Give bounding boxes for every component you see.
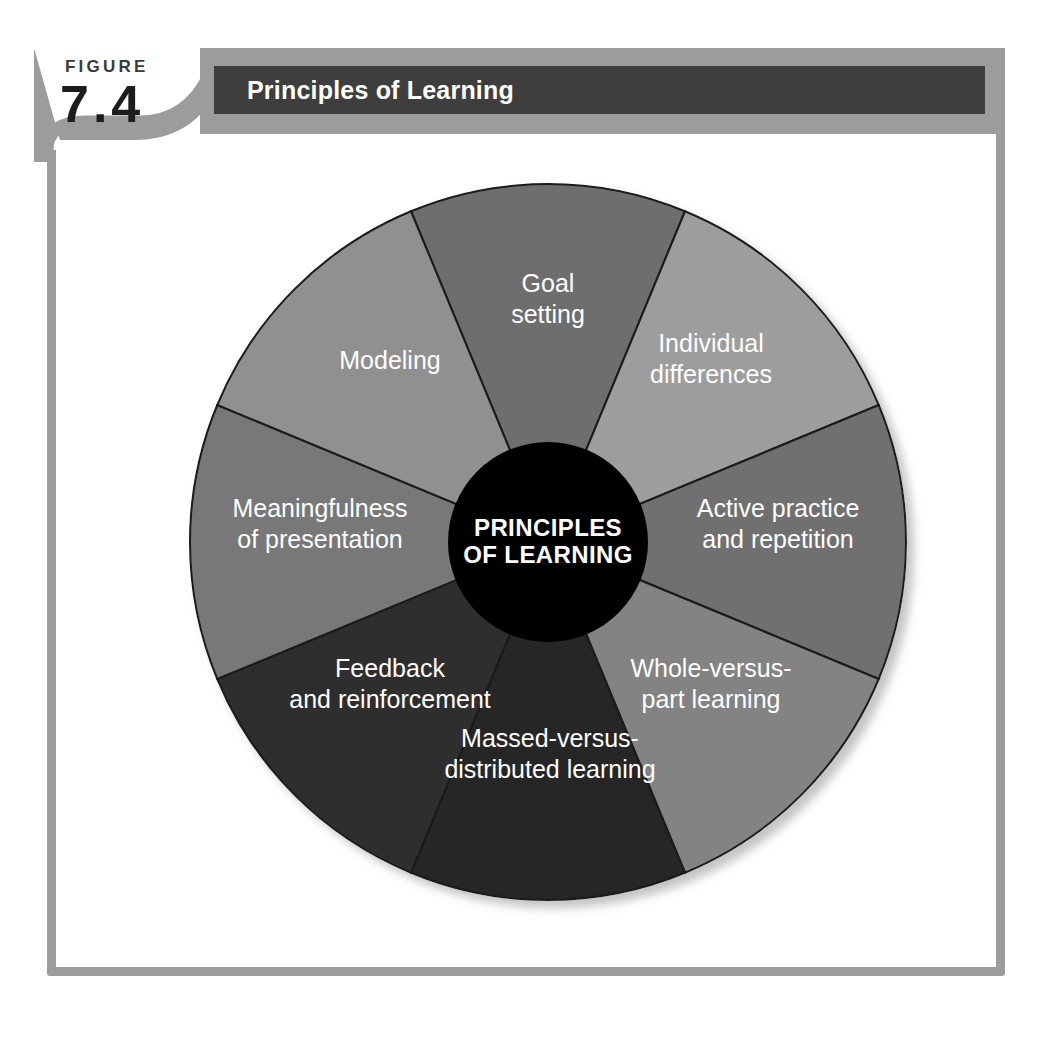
figure-word-label: FIGURE bbox=[60, 58, 210, 75]
wheel-slice-label: Modeling bbox=[339, 346, 440, 374]
principles-wheel: GoalsettingIndividualdifferencesActive p… bbox=[168, 162, 928, 922]
figure-title: Principles of Learning bbox=[247, 74, 514, 106]
hub-label-line1: PRINCIPLES bbox=[474, 514, 622, 541]
principles-wheel-svg: GoalsettingIndividualdifferencesActive p… bbox=[168, 162, 928, 922]
figure-number-block: FIGURE 7.4 bbox=[60, 58, 210, 132]
hub-label-line2: OF LEARNING bbox=[463, 541, 633, 568]
figure-page: FIGURE 7.4 Principles of Learning Goalse… bbox=[0, 0, 1051, 1046]
figure-number-value: 7.4 bbox=[60, 77, 210, 132]
